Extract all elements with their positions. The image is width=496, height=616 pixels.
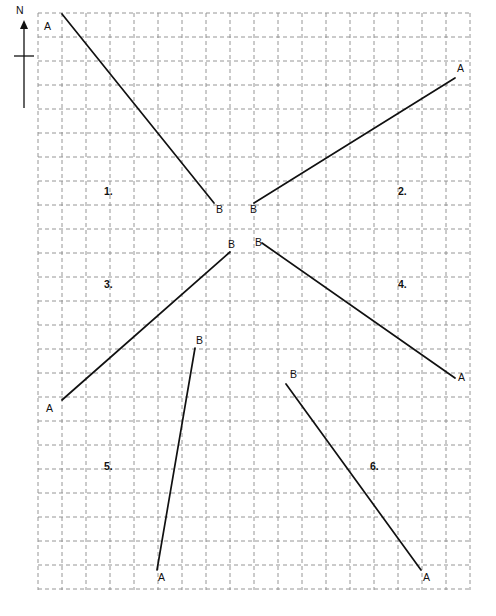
item-number-6: 6. [370, 460, 379, 472]
point-label-a-3: A [46, 402, 53, 414]
compass-north-label: N [16, 4, 24, 16]
item-number-4: 4. [398, 278, 407, 290]
vector-line-6 [286, 384, 421, 570]
item-numbers-group: 1.2.3.4.5.6. [104, 185, 407, 472]
vector-line-2 [254, 78, 455, 203]
point-label-a-1: A [44, 20, 51, 32]
point-label-a-4: A [458, 371, 465, 383]
vector-line-5 [157, 348, 195, 570]
item-number-1: 1. [104, 185, 113, 197]
bearings-worksheet: N ABABABABABAB 1.2.3.4.5.6. [0, 0, 496, 616]
vector-line-3 [62, 252, 230, 400]
dashed-grid [38, 13, 470, 590]
point-label-a-5: A [158, 571, 165, 583]
item-number-3: 3. [104, 278, 113, 290]
point-label-a-2: A [457, 62, 464, 74]
point-label-b-5: B [196, 334, 203, 346]
item-number-2: 2. [398, 185, 407, 197]
item-number-5: 5. [104, 460, 113, 472]
point-label-b-4: B [255, 236, 262, 248]
point-label-a-6: A [423, 571, 430, 583]
point-label-b-3: B [228, 238, 235, 250]
vector-lines-group [62, 14, 455, 570]
vector-line-4 [262, 243, 455, 378]
point-label-b-2: B [250, 203, 257, 215]
point-label-b-6: B [290, 368, 297, 380]
worksheet-canvas: N ABABABABABAB 1.2.3.4.5.6. [0, 0, 496, 616]
point-labels-group: ABABABABABAB [44, 20, 465, 583]
north-arrow-icon: N [14, 4, 34, 108]
compass-arrowhead [20, 20, 28, 29]
point-label-b-1: B [216, 203, 223, 215]
vector-line-1 [62, 14, 214, 203]
